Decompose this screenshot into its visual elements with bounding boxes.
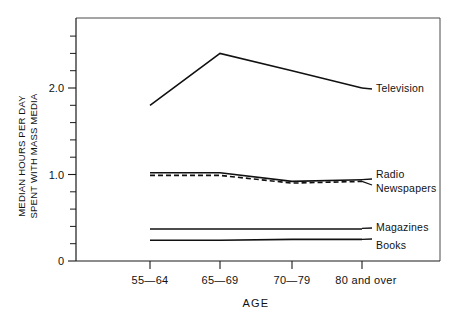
- y-tick-label-0: 0: [58, 255, 64, 267]
- y-axis-major-ticks: [68, 88, 76, 261]
- series-label-newspapers: Newspapers: [376, 182, 436, 194]
- series-label-television: Television: [376, 82, 424, 94]
- y-axis-title-line2: SPENT WITH MASS MEDIA: [28, 93, 39, 218]
- series-line-television: [150, 53, 362, 105]
- x-tick-label-65-69: 65—69: [202, 274, 239, 286]
- chart-canvas: 0 1.0 2.0 MEDIAN HOURS PER DAY SPENT WIT…: [0, 0, 461, 323]
- series-label-magazines: Magazines: [376, 221, 429, 233]
- y-tick-label-1: 1.0: [49, 169, 64, 181]
- y-tick-label-2: 2.0: [49, 82, 64, 94]
- series-leader-radio: [362, 179, 372, 180]
- series-line-books: [150, 239, 362, 240]
- x-tick-label-80-and-over: 80 and over: [335, 274, 396, 286]
- series-leader-newspapers: [362, 181, 372, 185]
- x-tick-label-70-79: 70—79: [274, 274, 311, 286]
- x-axis-title: AGE: [243, 297, 270, 309]
- series-leader-television: [362, 88, 372, 89]
- series-line-radio: [150, 173, 362, 182]
- y-axis-title: MEDIAN HOURS PER DAY SPENT WITH MASS MED…: [16, 93, 39, 218]
- y-axis-minor-ticks: [70, 36, 76, 244]
- chart-figure: 0 1.0 2.0 MEDIAN HOURS PER DAY SPENT WIT…: [0, 0, 461, 323]
- series-label-books: Books: [376, 239, 406, 251]
- x-tick-label-55-64: 55—64: [132, 274, 169, 286]
- x-axis-ticks: [150, 261, 362, 269]
- y-axis-title-line1: MEDIAN HOURS PER DAY: [16, 95, 27, 217]
- series-label-radio: Radio: [376, 168, 404, 180]
